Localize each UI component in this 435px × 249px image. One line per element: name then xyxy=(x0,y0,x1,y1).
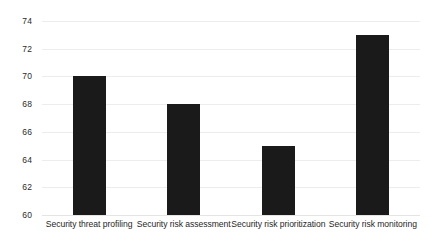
x-axis-category-label: Security threat profiling xyxy=(46,220,133,229)
y-axis-tick-label: 66 xyxy=(6,128,32,137)
bar[interactable] xyxy=(356,35,389,215)
y-axis-tick-label: 70 xyxy=(6,72,32,81)
y-axis-tick-label: 72 xyxy=(6,45,32,54)
gridline xyxy=(42,215,420,216)
x-axis-category-label: Security risk prioritization xyxy=(231,220,325,229)
y-axis-tick-label: 64 xyxy=(6,156,32,165)
y-axis-tick-label: 68 xyxy=(6,100,32,109)
bar[interactable] xyxy=(167,104,200,215)
x-axis-category-label: Security risk monitoring xyxy=(329,220,417,229)
y-axis-tick-label: 62 xyxy=(6,183,32,192)
bar-chart: 6062646668707274 Security threat profili… xyxy=(0,0,435,249)
gridline xyxy=(42,21,420,22)
bar[interactable] xyxy=(262,146,295,215)
y-axis-tick-label: 60 xyxy=(6,211,32,220)
x-axis-category-label: Security risk assessment xyxy=(137,220,231,229)
bar[interactable] xyxy=(73,76,106,215)
y-axis-tick-label: 74 xyxy=(6,17,32,26)
